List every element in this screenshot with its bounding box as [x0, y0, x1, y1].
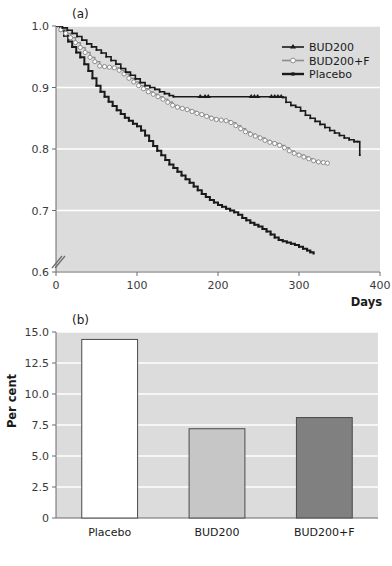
data-point-marker: [144, 134, 146, 136]
legend-label: BUD200+F: [309, 55, 370, 68]
data-point-marker: [302, 248, 304, 250]
data-point-marker: [146, 90, 150, 94]
data-point-marker: [103, 64, 107, 68]
data-point-marker: [68, 36, 72, 40]
data-point-marker: [169, 95, 171, 97]
data-point-marker: [124, 117, 126, 119]
data-point-marker: [356, 141, 358, 143]
data-point-marker: [295, 106, 297, 108]
data-point-marker: [306, 249, 308, 251]
data-point-marker: [258, 136, 262, 140]
x-axis-tick-label: 300: [289, 279, 310, 292]
data-point-marker: [309, 251, 311, 253]
data-point-marker: [177, 171, 179, 173]
data-point-marker: [292, 151, 296, 155]
data-point-marker: [277, 143, 281, 147]
data-point-marker: [105, 56, 107, 58]
y-axis-tick-label: 2.5: [32, 481, 50, 494]
data-point-marker: [78, 45, 82, 49]
x-axis-category-label: Placebo: [88, 526, 131, 539]
survival-curve-svg: (a)0.60.70.80.91.00100200300400DaysBUD20…: [0, 0, 392, 310]
data-point-marker: [139, 82, 141, 84]
data-point-marker: [339, 135, 341, 137]
data-point-marker: [268, 140, 272, 144]
y-axis-tick-label: 0.7: [32, 205, 50, 218]
data-point-marker: [205, 196, 207, 198]
data-point-marker: [348, 139, 350, 141]
data-point-marker: [217, 204, 219, 206]
data-point-marker: [120, 68, 122, 70]
data-point-marker: [294, 244, 296, 246]
data-point-marker: [96, 49, 98, 51]
data-point-marker: [253, 134, 257, 138]
data-point-marker: [239, 127, 243, 131]
bar[interactable]: [82, 339, 138, 518]
data-point-marker: [151, 92, 155, 96]
data-point-marker: [321, 160, 325, 164]
data-point-marker: [190, 109, 194, 113]
bar-chart-svg: (b)02.55.07.510.012.515.0Per centPlacebo…: [0, 310, 392, 566]
data-point-marker: [141, 87, 145, 91]
data-point-marker: [156, 95, 160, 99]
data-point-marker: [205, 114, 209, 118]
panel-b-label: (b): [72, 313, 89, 327]
data-point-marker: [185, 178, 187, 180]
data-point-marker: [300, 110, 302, 112]
data-point-marker: [305, 114, 307, 116]
bar[interactable]: [296, 418, 352, 518]
data-point-marker: [273, 141, 277, 145]
x-axis-category-label: BUD200+F: [294, 526, 355, 539]
data-point-marker: [298, 246, 300, 248]
data-point-marker: [311, 159, 315, 163]
data-point-marker: [100, 52, 102, 54]
data-point-marker: [166, 100, 170, 104]
x-axis-title: Days: [351, 295, 382, 309]
legend-label: BUD200: [309, 41, 354, 54]
data-point-marker: [132, 123, 134, 125]
x-axis-tick-label: 100: [127, 279, 148, 292]
y-axis-tick-label: 0.8: [32, 143, 50, 156]
legend-marker-square: [291, 72, 294, 75]
data-point-marker: [71, 32, 73, 34]
data-point-marker: [91, 77, 93, 79]
data-point-marker: [209, 116, 213, 120]
data-point-marker: [197, 189, 199, 191]
y-axis-title: Per cent: [5, 373, 19, 428]
data-point-marker: [110, 60, 112, 62]
data-point-marker: [128, 120, 130, 122]
data-point-marker: [297, 153, 301, 157]
data-point-marker: [229, 210, 231, 212]
figure-container: (a)0.60.70.80.91.00100200300400DaysBUD20…: [0, 0, 392, 566]
data-point-marker: [290, 243, 292, 245]
data-point-marker: [263, 138, 267, 142]
data-point-marker: [245, 219, 247, 221]
y-axis-tick-label: 0.6: [32, 266, 50, 279]
data-point-marker: [270, 96, 272, 98]
y-axis-tick-label: 7.5: [32, 419, 50, 432]
data-point-marker: [125, 71, 127, 73]
panel-a-label: (a): [72, 7, 89, 21]
data-point-marker: [130, 74, 132, 76]
bar-group-bud200-f[interactable]: [296, 418, 352, 518]
bar-group-placebo[interactable]: [82, 339, 138, 518]
data-point-marker: [173, 96, 175, 98]
data-point-marker: [319, 124, 321, 126]
y-axis-tick-label: 1.0: [32, 20, 50, 33]
data-point-marker: [205, 96, 207, 98]
legend-marker-circle-open: [291, 58, 296, 63]
data-point-marker: [112, 105, 114, 107]
data-point-marker: [253, 96, 255, 98]
data-point-marker: [120, 113, 122, 115]
y-axis-tick-label: 0: [42, 512, 49, 525]
x-axis-tick-label: 200: [208, 279, 229, 292]
data-point-marker: [71, 46, 73, 48]
bar[interactable]: [189, 429, 245, 518]
data-point-marker: [285, 101, 287, 103]
data-point-marker: [86, 43, 88, 45]
data-point-marker: [161, 97, 165, 101]
data-point-marker: [98, 64, 102, 68]
bar-group-bud200[interactable]: [189, 429, 245, 518]
data-point-marker: [64, 31, 68, 35]
data-point-marker: [137, 84, 141, 88]
data-point-marker: [156, 150, 158, 152]
